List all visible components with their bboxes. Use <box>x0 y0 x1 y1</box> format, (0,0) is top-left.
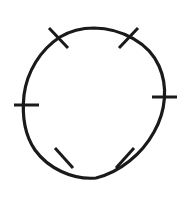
figure-canvas: Circle with six radial tick marks A hand… <box>0 0 188 199</box>
main-circle <box>23 28 164 178</box>
tick-lower-left <box>55 148 73 168</box>
circle-diagram-svg: Circle with six radial tick marks A hand… <box>0 0 188 199</box>
